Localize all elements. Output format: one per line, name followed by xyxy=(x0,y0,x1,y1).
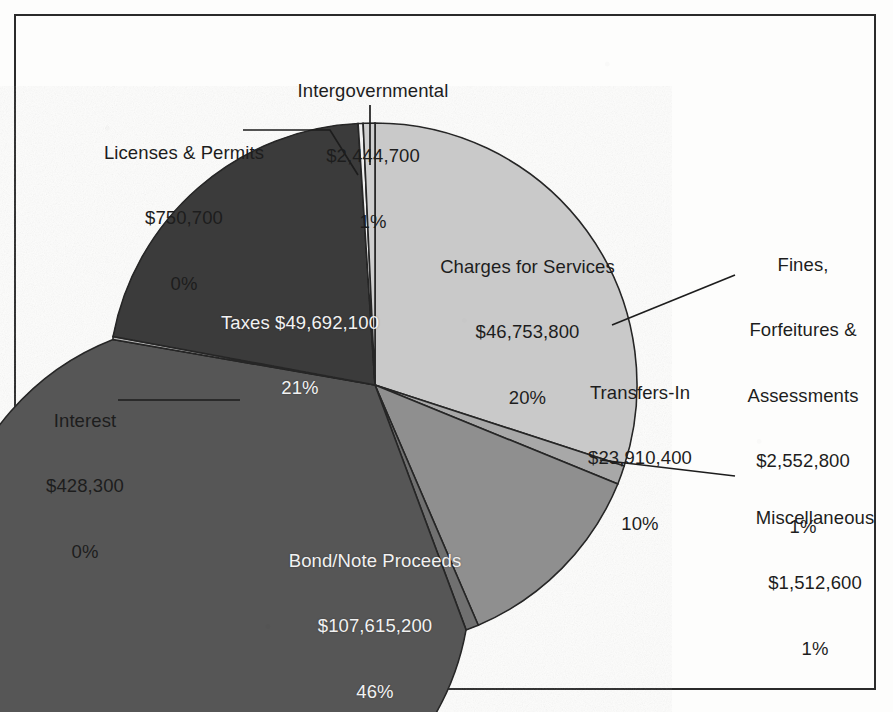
label-bond-note-proceeds-percent: 46% xyxy=(225,681,525,703)
label-transfers-in-name: Transfers-In xyxy=(540,382,740,404)
label-intergovernmental-name: Intergovernmental xyxy=(258,80,488,102)
label-licenses-permits-name: Licenses & Permits xyxy=(84,142,284,164)
label-transfers-in-percent: 10% xyxy=(540,513,740,535)
label-miscellaneous-percent: 1% xyxy=(735,638,893,660)
label-taxes: Taxes $49,692,100 21% xyxy=(160,268,440,443)
chart-page: Intergovernmental $2,444,700 1% Licenses… xyxy=(0,0,893,712)
pie-chart: Intergovernmental $2,444,700 1% Licenses… xyxy=(0,0,893,712)
label-miscellaneous-name: Miscellaneous xyxy=(735,507,893,529)
label-transfers-in: Transfers-In $23,910,400 10% xyxy=(540,338,740,578)
label-transfers-in-value: $23,910,400 xyxy=(540,447,740,469)
label-fines-line1: Fines, xyxy=(723,254,883,276)
label-interest-name: Interest xyxy=(10,410,160,432)
label-interest-value: $428,300 xyxy=(10,475,160,497)
label-miscellaneous-value: $1,512,600 xyxy=(735,572,893,594)
label-fines-line3: Assessments xyxy=(723,385,883,407)
label-miscellaneous: Miscellaneous $1,512,600 1% xyxy=(735,463,893,703)
label-intergovernmental-value: $2,444,700 xyxy=(258,145,488,167)
label-bond-note-proceeds-name: Bond/Note Proceeds xyxy=(225,550,525,572)
label-taxes-percent: 21% xyxy=(160,377,440,399)
label-charges-for-services-name: Charges for Services xyxy=(400,256,655,278)
label-bond-note-proceeds: Bond/Note Proceeds $107,615,200 46% xyxy=(225,506,525,712)
label-interest: Interest $428,300 0% xyxy=(10,366,160,606)
label-fines-line2: Forfeitures & xyxy=(723,319,883,341)
label-taxes-name-value: Taxes $49,692,100 xyxy=(160,312,440,334)
label-licenses-permits-value: $750,700 xyxy=(84,207,284,229)
label-interest-percent: 0% xyxy=(10,541,160,563)
label-bond-note-proceeds-value: $107,615,200 xyxy=(225,615,525,637)
